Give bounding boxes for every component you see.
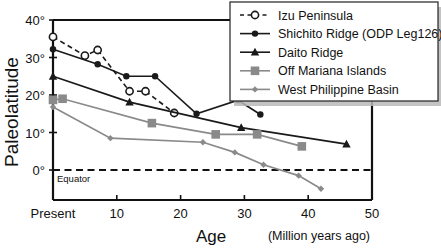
- data-point: [148, 119, 157, 128]
- y-tick-label: 10°: [25, 126, 45, 141]
- data-point: [50, 46, 56, 52]
- y-axis-title: Paleolatitude: [1, 57, 22, 167]
- x-tick-label: 50: [365, 206, 379, 221]
- legend-label: West Philippine Basin: [278, 83, 399, 97]
- data-point: [232, 149, 238, 155]
- data-point: [94, 46, 101, 53]
- data-point: [49, 72, 57, 80]
- data-point: [49, 96, 58, 105]
- data-point: [251, 67, 260, 76]
- series-izu-peninsula: [49, 33, 177, 116]
- data-point: [58, 94, 67, 103]
- series-west-philippine-basin: [50, 104, 324, 192]
- data-point: [123, 73, 129, 79]
- paleolatitude-chart: 0°10°20°30°40°Present1020304050EquatorAg…: [0, 0, 441, 251]
- x-tick-label: Present: [31, 206, 76, 221]
- data-point: [260, 162, 266, 168]
- legend-label: Daito Ridge: [278, 46, 343, 60]
- data-point: [50, 104, 56, 110]
- data-point: [251, 11, 258, 18]
- data-point: [94, 61, 100, 67]
- data-point: [107, 135, 113, 141]
- equator-label: Equator: [57, 173, 90, 184]
- data-point: [142, 88, 149, 95]
- legend-label: Shichito Ridge (ODP Leg126): [278, 27, 441, 41]
- data-point: [253, 130, 262, 139]
- x-tick-label: 30: [237, 206, 251, 221]
- y-tick-label: 30°: [25, 51, 45, 66]
- series-line: [53, 107, 321, 189]
- data-point: [193, 111, 199, 117]
- y-tick-label: 40°: [25, 13, 45, 28]
- data-point: [257, 111, 263, 117]
- legend-label: Off Mariana Islands: [278, 64, 386, 78]
- data-point: [152, 73, 158, 79]
- y-tick-label: 0°: [33, 163, 45, 178]
- data-point: [81, 52, 88, 59]
- data-point: [49, 33, 56, 40]
- x-tick-label: 20: [173, 206, 187, 221]
- chart-canvas: 0°10°20°30°40°Present1020304050EquatorAg…: [0, 0, 441, 251]
- x-axis-title: Age: [196, 227, 226, 246]
- data-point: [211, 130, 220, 139]
- x-axis-units: (Million years ago): [268, 229, 370, 243]
- data-point: [200, 139, 206, 145]
- data-point: [298, 142, 307, 151]
- x-tick-label: 10: [110, 206, 124, 221]
- y-tick-label: 20°: [25, 88, 45, 103]
- data-point: [126, 88, 133, 95]
- x-tick-label: 40: [301, 206, 315, 221]
- legend-label: Izu Peninsula: [278, 9, 353, 23]
- data-point: [252, 30, 258, 36]
